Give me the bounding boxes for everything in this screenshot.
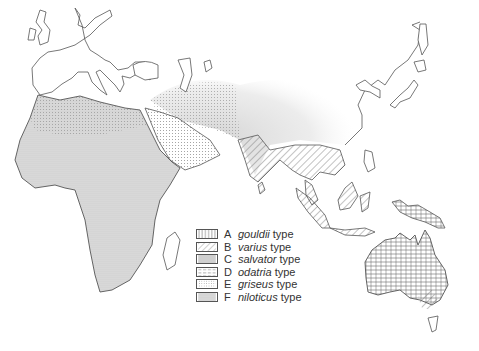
legend: A gouldii type B varius type C salvator … <box>196 228 326 303</box>
legend-item-e: E griseus type <box>196 278 326 291</box>
legend-item-a: A gouldii type <box>196 228 326 241</box>
legend-item-d: D odatria type <box>196 266 326 279</box>
legend-item-b: B varius type <box>196 241 326 254</box>
pattern-dots-icon <box>196 279 218 289</box>
australia <box>365 230 448 332</box>
pattern-diagonal-lines-icon <box>196 242 218 252</box>
pattern-stipple-icon <box>196 292 218 302</box>
legend-item-f: F niloticus type <box>196 291 326 304</box>
pattern-vertical-lines-icon <box>196 229 218 239</box>
europe <box>28 8 212 95</box>
pattern-solid-grey-icon <box>196 254 218 264</box>
region-salvator-asia <box>238 135 375 236</box>
east-asia <box>345 22 428 145</box>
pattern-dashed-lines-icon <box>196 267 218 277</box>
new-guinea <box>392 200 445 228</box>
legend-item-c: C salvator type <box>196 253 326 266</box>
